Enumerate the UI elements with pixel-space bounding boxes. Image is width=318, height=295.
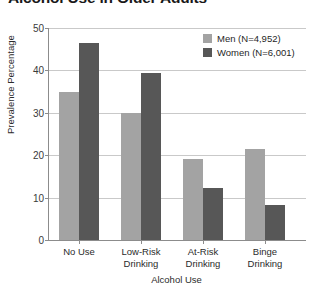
chart-title: Alcohol Use in Older Adults [8, 0, 310, 6]
legend-item: Men (N=4,952) [203, 31, 295, 45]
y-tick-label: 40 [33, 65, 44, 76]
x-category-label: Low-Risk Drinking [108, 246, 174, 269]
gridline [49, 28, 306, 29]
y-tick-mark [45, 113, 49, 114]
legend-item: Women (N=6,001) [203, 45, 295, 59]
bar [203, 188, 223, 240]
x-axis-label: Alcohol Use [48, 274, 305, 285]
chart-legend: Men (N=4,952)Women (N=6,001) [203, 31, 295, 59]
x-tick-mark [79, 240, 80, 244]
bar [265, 205, 285, 240]
x-category-label: Binge Drinking [232, 246, 298, 269]
y-tick-label: 20 [33, 150, 44, 161]
legend-label: Men (N=4,952) [217, 33, 281, 44]
y-tick-mark [45, 28, 49, 29]
legend-swatch-icon [203, 34, 212, 43]
plot-area: 01020304050 No UseLow-Risk DrinkingAt-Ri… [48, 28, 306, 241]
y-tick-label: 30 [33, 107, 44, 118]
y-tick-mark [45, 198, 49, 199]
x-tick-mark [265, 240, 266, 244]
y-tick-mark [45, 240, 49, 241]
legend-swatch-icon [203, 48, 212, 57]
x-tick-mark [203, 240, 204, 244]
y-tick-mark [45, 70, 49, 71]
bar [245, 149, 265, 240]
bar [141, 73, 161, 240]
chart-figure: Alcohol Use in Older Adults Prevalence P… [0, 0, 318, 295]
y-tick-label: 50 [33, 23, 44, 34]
bar [183, 159, 203, 240]
x-category-label: At-Risk Drinking [170, 246, 236, 269]
bar [79, 43, 99, 240]
y-tick-label: 0 [38, 235, 44, 246]
bar [59, 92, 79, 240]
x-category-label: No Use [46, 246, 112, 258]
y-tick-mark [45, 155, 49, 156]
legend-label: Women (N=6,001) [217, 47, 295, 58]
x-tick-mark [141, 240, 142, 244]
y-tick-label: 10 [33, 192, 44, 203]
y-axis-label: Prevalence Percentage [5, 35, 16, 134]
bar [121, 113, 141, 240]
